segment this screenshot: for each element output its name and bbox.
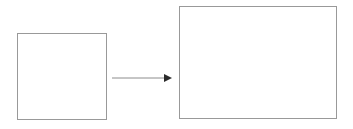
small-square-shape[interactable] [17, 33, 107, 120]
arrow-head-icon [164, 74, 172, 82]
diagram-canvas: Transformation diagram: small square map… [0, 0, 353, 129]
large-rectangle-label [180, 7, 181, 8]
transform-arrow[interactable] [108, 70, 176, 86]
arrow-svg [108, 70, 176, 86]
large-rectangle-shape[interactable] [179, 6, 337, 119]
diagram-title: Transformation diagram: small square map… [0, 0, 1, 1]
small-square-label [18, 34, 19, 35]
arrow-label [108, 86, 109, 87]
